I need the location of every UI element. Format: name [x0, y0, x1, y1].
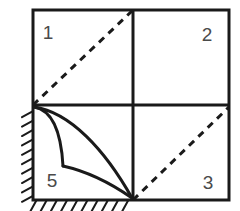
quadrant-diagram-svg: 1 2 3 5 [0, 0, 240, 211]
region-label-1: 1 [43, 22, 54, 43]
region-label-5: 5 [47, 170, 58, 191]
figure-container: 1 2 3 5 [0, 0, 240, 211]
region-label-2: 2 [202, 24, 213, 45]
region-label-3: 3 [203, 172, 214, 193]
